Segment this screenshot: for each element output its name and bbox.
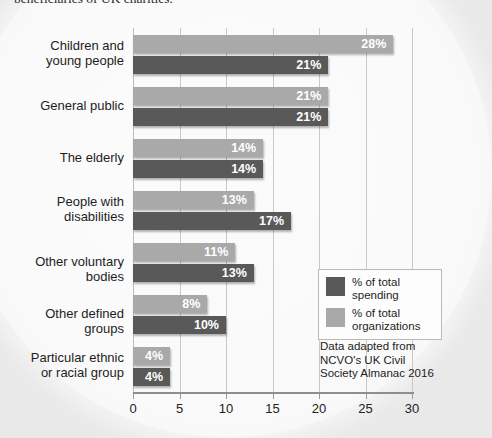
gridline-0 xyxy=(133,28,134,392)
bar-value-label: 28% xyxy=(361,36,386,52)
bar: 28% xyxy=(133,35,393,53)
bar-value-label: 10% xyxy=(194,317,219,333)
bar: 14% xyxy=(133,160,263,178)
gridline-15 xyxy=(273,28,274,392)
x-tick-label-5: 5 xyxy=(176,401,183,416)
legend-swatch-spending-icon xyxy=(326,277,345,296)
bar: 14% xyxy=(133,139,263,157)
x-tick-label-30: 30 xyxy=(405,401,419,416)
bar-value-label: 14% xyxy=(231,140,256,156)
gridline-5 xyxy=(180,28,181,392)
category-label: People with disabilities xyxy=(4,194,124,224)
bar: 8% xyxy=(133,295,207,313)
x-axis-baseline xyxy=(133,392,414,394)
bar-value-label: 17% xyxy=(259,213,284,229)
bar-value-label: 14% xyxy=(231,161,256,177)
bar-value-label: 4% xyxy=(145,348,163,364)
bar: 11% xyxy=(133,243,235,261)
caption-text: beneficiaries of UK charities. xyxy=(14,0,173,7)
caption-strip: beneficiaries of UK charities. xyxy=(0,0,452,14)
bar: 17% xyxy=(133,212,291,230)
bar: 21% xyxy=(133,108,328,126)
bar: 4% xyxy=(133,347,170,365)
gridline-10 xyxy=(226,28,227,392)
bar: 21% xyxy=(133,87,328,105)
legend-swatch-organizations-icon xyxy=(326,308,345,327)
x-tick-label-10: 10 xyxy=(219,401,233,416)
legend-item-spending: % of total spending xyxy=(326,276,435,302)
x-tick-label-15: 15 xyxy=(265,401,279,416)
legend-item-organizations: % of total organizations xyxy=(326,307,435,333)
x-tick-label-0: 0 xyxy=(129,401,136,416)
bar: 10% xyxy=(133,316,226,334)
x-tick-label-20: 20 xyxy=(312,401,326,416)
bar: 21% xyxy=(133,56,328,74)
category-label: Other defined groups xyxy=(4,306,124,336)
category-label: General public xyxy=(4,98,124,113)
source-note: Data adapted from NCVO's UK Civil Societ… xyxy=(320,340,450,381)
chart-legend: % of total spending % of total organizat… xyxy=(318,269,442,340)
category-label: Other voluntary bodies xyxy=(4,254,124,284)
bar-value-label: 21% xyxy=(296,57,321,73)
bar-value-label: 13% xyxy=(222,265,247,281)
category-label: Children and young people xyxy=(4,38,124,68)
legend-label-spending: % of total spending xyxy=(352,276,400,302)
bar-value-label: 21% xyxy=(296,109,321,125)
bar-value-label: 13% xyxy=(222,192,247,208)
bar: 4% xyxy=(133,368,170,386)
bar-value-label: 21% xyxy=(296,88,321,104)
bar: 13% xyxy=(133,191,254,209)
bar: 13% xyxy=(133,264,254,282)
bar-value-label: 11% xyxy=(204,244,228,260)
category-label: Particular ethnic or racial group xyxy=(4,350,124,380)
bar-value-label: 8% xyxy=(182,296,200,312)
bar-value-label: 4% xyxy=(145,369,163,385)
x-tick-label-25: 25 xyxy=(358,401,372,416)
legend-label-organizations: % of total organizations xyxy=(352,307,420,333)
category-label: The elderly xyxy=(4,150,124,165)
